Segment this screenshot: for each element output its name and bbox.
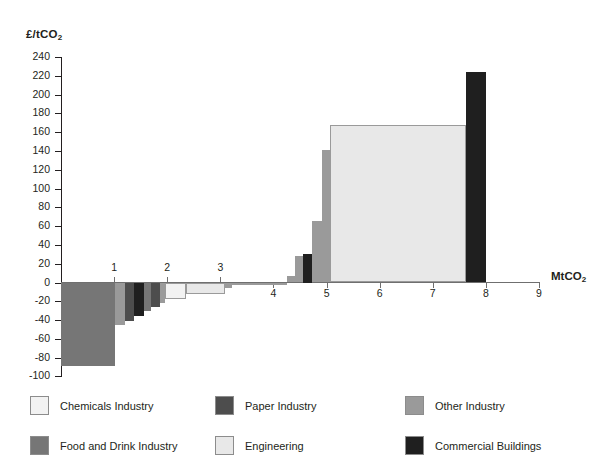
bar: [165, 283, 186, 300]
y-tick-label: 100: [2, 183, 50, 194]
y-tick: [55, 132, 62, 133]
y-tick-label: 140: [2, 145, 50, 156]
bar: [295, 256, 303, 282]
y-tick: [55, 245, 62, 246]
legend-label: Chemicals Industry: [60, 400, 154, 412]
legend-item: Engineering: [215, 436, 304, 455]
y-axis-title: £/tCO2: [26, 28, 62, 40]
y-tick-label: 160: [2, 126, 50, 137]
y-tick-label: 0: [2, 277, 50, 288]
y-tick: [55, 170, 62, 171]
y-tick-label: -80: [2, 352, 50, 363]
y-tick-label: 220: [2, 70, 50, 81]
y-tick: [55, 226, 62, 227]
legend-label: Engineering: [245, 440, 304, 452]
legend-label: Food and Drink Industry: [60, 440, 177, 452]
x-axis-title: MtCO2: [551, 270, 586, 282]
bar: [312, 221, 323, 282]
bar: [61, 283, 115, 367]
bar: [225, 283, 232, 289]
y-tick-label: 200: [2, 89, 50, 100]
y-tick-label: -100: [2, 370, 50, 381]
legend-item: Chemicals Industry: [30, 396, 154, 415]
legend-swatch: [30, 396, 49, 415]
x-tick-label: 6: [370, 288, 390, 299]
bar: [134, 283, 144, 317]
legend-item: Paper Industry: [215, 396, 317, 415]
x-tick-label: 1: [104, 262, 124, 273]
y-tick-label: 240: [2, 51, 50, 62]
x-tick-label: 5: [317, 288, 337, 299]
y-tick: [55, 57, 62, 58]
y-tick-label: 20: [2, 258, 50, 269]
y-tick-label: 80: [2, 201, 50, 212]
x-tick-label: 3: [210, 262, 230, 273]
y-tick-label: -40: [2, 314, 50, 325]
legend-swatch: [405, 396, 424, 415]
y-tick: [55, 207, 62, 208]
y-tick-label: 180: [2, 107, 50, 118]
chart-legend: Chemicals IndustryPaper IndustryOther In…: [0, 385, 604, 468]
x-tick-label: 7: [423, 288, 443, 299]
y-tick: [55, 189, 62, 190]
bar: [287, 276, 294, 283]
y-tick: [55, 376, 62, 377]
x-tick-label: 8: [476, 288, 496, 299]
legend-swatch: [30, 436, 49, 455]
y-tick-label: -20: [2, 295, 50, 306]
legend-swatch: [405, 436, 424, 455]
y-tick: [55, 113, 62, 114]
bar: [466, 72, 486, 282]
legend-item: Other Industry: [405, 396, 505, 415]
y-tick: [55, 95, 62, 96]
legend-item: Commercial Buildings: [405, 436, 541, 455]
x-tick-label: 9: [529, 288, 549, 299]
x-tick-label: 2: [157, 262, 177, 273]
legend-label: Commercial Buildings: [435, 440, 541, 452]
bar: [151, 283, 159, 307]
legend-item: Food and Drink Industry: [30, 436, 177, 455]
y-tick: [55, 76, 62, 77]
bar: [330, 125, 466, 283]
bar: [144, 283, 151, 311]
legend-swatch: [215, 396, 234, 415]
bar: [115, 283, 125, 325]
chart-area: £/tCO2 240220200180160140120100806040200…: [0, 0, 604, 385]
legend-label: Other Industry: [435, 400, 505, 412]
bar: [303, 254, 311, 282]
bar: [322, 150, 329, 282]
x-tick-label: 4: [263, 288, 283, 299]
y-tick: [55, 151, 62, 152]
bar: [125, 283, 135, 322]
y-tick: [55, 264, 62, 265]
bar: [232, 283, 287, 285]
legend-label: Paper Industry: [245, 400, 317, 412]
legend-swatch: [215, 436, 234, 455]
y-tick-label: 120: [2, 164, 50, 175]
y-tick-label: 60: [2, 220, 50, 231]
bar: [186, 283, 224, 294]
y-tick-label: -60: [2, 333, 50, 344]
y-tick-label: 40: [2, 239, 50, 250]
